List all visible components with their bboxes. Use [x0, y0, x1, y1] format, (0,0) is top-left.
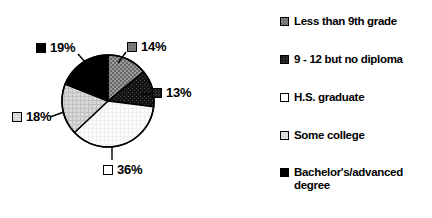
slice-value-bachelors-advanced-degree: 19% [50, 41, 75, 54]
leader-line-18 [50, 112, 64, 117]
pie-slices-group [62, 55, 154, 147]
pie-plot-area: 14% 13% 36% 18% 19% [0, 0, 216, 218]
slice-value-grade-9-12-no-diploma: 13% [166, 86, 191, 99]
slice-value-some-college: 18% [26, 110, 51, 123]
slice-value-less-than-9th-grade: 14% [141, 40, 166, 53]
slice-swatch-icon-some-college [12, 112, 22, 122]
slice-swatch-icon-bachelors-advanced-degree [36, 43, 46, 53]
slice-callout-hs-graduate: 36% [103, 163, 142, 176]
legend-swatch-icon-some-college [280, 131, 289, 140]
chart-legend: Less than 9th grade 9 - 12 but no diplom… [275, 0, 432, 218]
legend-item-hs-graduate: H.S. graduate [280, 91, 364, 104]
legend-label-bachelors-advanced-degree: Bachelor's/advanced degree [294, 166, 432, 192]
slice-swatch-icon-less-than-9th-grade [127, 42, 137, 52]
legend-item-less-than-9th-grade: Less than 9th grade [280, 15, 397, 28]
legend-item-grade-9-12-no-diploma: 9 - 12 but no diploma [280, 53, 403, 66]
slice-swatch-icon-grade-9-12-no-diploma [152, 88, 162, 98]
legend-swatch-icon-hs-graduate [280, 93, 289, 102]
slice-callout-some-college: 18% [12, 110, 51, 123]
legend-item-bachelors-advanced-degree: Bachelor's/advanced degree [280, 166, 432, 192]
legend-item-some-college: Some college [280, 129, 365, 142]
legend-swatch-icon-grade-9-12-no-diploma [280, 55, 289, 64]
legend-label-some-college: Some college [294, 129, 365, 142]
legend-label-hs-graduate: H.S. graduate [294, 91, 364, 104]
slice-callout-bachelors-advanced-degree: 19% [36, 41, 75, 54]
legend-label-less-than-9th-grade: Less than 9th grade [294, 15, 397, 28]
slice-callout-less-than-9th-grade: 14% [127, 40, 166, 53]
legend-label-grade-9-12-no-diploma: 9 - 12 but no diploma [294, 53, 403, 66]
slice-swatch-icon-hs-graduate [103, 165, 113, 175]
slice-callout-grade-9-12-no-diploma: 13% [152, 86, 191, 99]
legend-swatch-icon-less-than-9th-grade [280, 17, 289, 26]
slice-value-hs-graduate: 36% [117, 163, 142, 176]
pie-chart-figure: 14% 13% 36% 18% 19% Less than 9th grade … [0, 0, 432, 218]
legend-swatch-icon-bachelors-advanced-degree [280, 168, 289, 177]
